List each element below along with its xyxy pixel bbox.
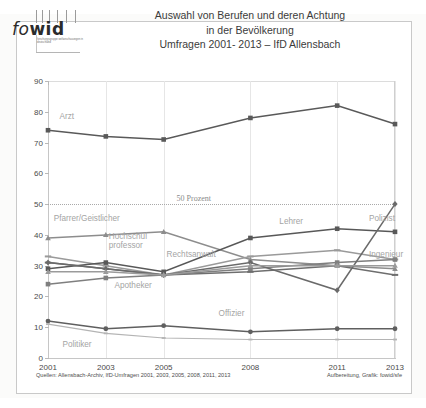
y-tick-label: 50 <box>34 200 43 209</box>
series-marker <box>393 326 398 331</box>
series-label-ingenieur: Ingenieur <box>369 250 403 259</box>
series-label-line: Rechtsanwalt <box>167 250 216 259</box>
series-marker <box>247 255 253 257</box>
x-tick-label: 2011 <box>329 363 346 372</box>
series-marker <box>104 276 109 281</box>
source-note: Quellen: Allensbach-Archiv, IfD-Umfragen… <box>36 372 230 378</box>
series-label-line: Arzt <box>60 112 75 121</box>
series-label-arzt: Arzt <box>60 112 75 121</box>
series-marker <box>46 282 51 287</box>
series-label-line: Ingenieur <box>369 250 403 259</box>
series-marker <box>393 230 398 235</box>
series-marker <box>46 319 51 324</box>
series-marker <box>335 339 339 341</box>
series-marker <box>45 255 51 257</box>
x-tick-label: 2005 <box>155 363 173 372</box>
series-label-apotheker: Apotheker <box>115 281 152 290</box>
series-label-line: Offizier <box>219 309 245 318</box>
series-label-lehrer: Lehrer <box>279 217 303 226</box>
fowid-logo: fowid forschungsgruppe weltanschauungen … <box>12 10 90 56</box>
plot-area: 0102030405060708090 20012003200520082011… <box>48 81 395 358</box>
series-marker <box>335 226 340 231</box>
y-tick-label: 10 <box>34 323 43 332</box>
series-label-line: Pfarrer/Geistlicher <box>54 214 120 223</box>
y-tick-label: 30 <box>34 261 43 270</box>
credit-note: Aufbereitung, Grafik: fowid/sfe <box>327 372 402 378</box>
y-tick-label: 70 <box>34 138 43 147</box>
series-marker <box>248 116 253 121</box>
y-tick-label: 80 <box>34 107 43 116</box>
series-marker <box>161 323 166 328</box>
chart-title: Auswahl von Berufen und deren Achtung in… <box>96 8 404 52</box>
logo-word-w: w <box>29 19 45 39</box>
chart-title-line-1: Auswahl von Berufen und deren Achtung <box>96 8 404 23</box>
series-label-line: professor <box>109 241 147 251</box>
series-label-line: Hochschul <box>109 232 147 242</box>
series-label-pfarrer-geistlicher: Pfarrer/Geistlicher <box>54 214 120 223</box>
series-label-line: Polizist <box>369 214 395 223</box>
logo-word-fo: fo <box>12 19 29 39</box>
x-tick-label: 2013 <box>386 363 404 372</box>
series-marker <box>334 249 340 251</box>
series-marker <box>392 274 398 276</box>
logo-word-id: id <box>46 19 65 39</box>
series-line <box>48 106 395 140</box>
page-bottom-margin <box>0 398 426 408</box>
series-label-line: Apotheker <box>115 281 152 290</box>
series-marker <box>104 260 109 265</box>
x-tick-label: 2008 <box>242 363 260 372</box>
screenshot-page: fowid forschungsgruppe weltanschauungen … <box>0 0 426 408</box>
logo-subtitle: forschungsgruppe weltanschauungen in deu… <box>37 38 85 44</box>
series-marker <box>247 271 253 273</box>
series-label-line: Lehrer <box>279 217 303 226</box>
y-tick-label: 20 <box>34 292 43 301</box>
y-tick-label: 60 <box>34 169 43 178</box>
series-label-offizier: Offizier <box>219 309 245 318</box>
series-marker <box>248 339 252 341</box>
series-label-polizist: Polizist <box>369 214 395 223</box>
series-marker <box>103 326 108 331</box>
series-marker <box>248 329 253 334</box>
y-tick-mark <box>45 358 49 359</box>
series-marker <box>162 337 166 339</box>
series-marker <box>104 134 109 139</box>
series-label-line: Politiker <box>62 340 91 349</box>
y-tick-label: 40 <box>34 230 43 239</box>
series-marker <box>335 326 340 331</box>
y-tick-label: 0 <box>39 354 43 363</box>
series-line <box>48 321 395 332</box>
x-tick-label: 2001 <box>39 363 57 372</box>
y-tick-label: 90 <box>34 77 43 86</box>
series-marker <box>46 128 51 133</box>
series-marker <box>46 323 50 325</box>
series-line <box>48 324 395 339</box>
series-marker <box>161 137 166 142</box>
x-tick-label: 2003 <box>97 363 115 372</box>
series-marker <box>393 122 398 127</box>
logo-underline <box>36 52 80 53</box>
chart-title-line-2: in der Bevölkerung <box>96 23 404 38</box>
chart-title-line-3: Umfragen 2001- 2013 – IfD Allensbach <box>96 37 404 52</box>
series-marker <box>335 103 340 108</box>
series-marker <box>393 339 397 341</box>
series-label-politiker: Politiker <box>62 340 91 349</box>
logo-wordmark: fowid <box>12 19 65 39</box>
series-label-rechtsanwalt: Rechtsanwalt <box>167 250 216 259</box>
series-marker <box>104 332 108 334</box>
series-marker <box>248 236 253 241</box>
series-label-hochschulprofessor: Hochschulprofessor <box>109 232 147 251</box>
